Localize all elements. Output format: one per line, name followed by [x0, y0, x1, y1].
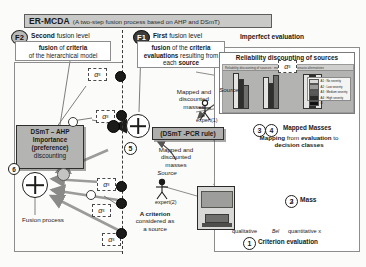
expert2-label: expert(2)	[155, 199, 177, 206]
second-fusion-description: fusion of criteria of the hierarchical m…	[15, 41, 111, 61]
monitor-base	[205, 214, 229, 223]
legend-label: A4 : High severity	[321, 96, 344, 101]
f2-b1: fusion	[39, 44, 58, 51]
fusion-process-label: Fusion process	[22, 216, 64, 223]
step-5-badge: 5	[124, 142, 137, 155]
criteria-node-4	[116, 198, 127, 209]
f1-b4: source	[178, 59, 199, 66]
alpha-subscript: s	[98, 72, 100, 77]
alpha-subscript: s	[106, 114, 108, 119]
alpha-subscript: s	[107, 182, 109, 187]
mapping-l1: Mapping from evaluation to	[240, 134, 358, 141]
mdm-bot-l3: masses	[149, 161, 203, 168]
reliability-legend: A1 : No severity A2 : Low severity A3 : …	[307, 77, 351, 101]
title-subtitle: (A two-step fusion process based on AHP …	[73, 18, 220, 25]
fusion-operator-first-level	[126, 114, 150, 138]
criteria-node-1	[115, 71, 126, 82]
alpha-chip-1: αs	[88, 68, 107, 81]
expert1-label: expert(1)	[196, 117, 218, 124]
fusion-output-node	[107, 120, 120, 133]
cas-l2: considered as	[124, 217, 186, 224]
alpha-chip-reliability: αs	[278, 60, 297, 73]
alpha-subscript: s	[102, 208, 104, 213]
axis-label-quantitative: quantitative x	[288, 228, 321, 234]
f1-r3: each	[163, 59, 178, 66]
f2-b2: criteria	[66, 44, 87, 51]
source-bottom-text: Source	[157, 169, 177, 176]
source-label-bottom: Source	[150, 169, 184, 176]
f1-r1: of the	[170, 44, 189, 51]
first-fusion-desc-line1: fusion of the criteria	[140, 44, 222, 52]
mapping-description: Mapping from evaluation to decision clas…	[240, 134, 358, 149]
axis-label-bel: Bel	[272, 228, 279, 234]
first-fusion-heading: First fusion level	[153, 32, 202, 39]
first-fusion-heading-rest: fusion level	[167, 32, 202, 39]
first-fusion-description: fusion of the criteria evaluations resul…	[137, 41, 225, 68]
second-fusion-heading-bold: Second	[31, 32, 55, 39]
legend-item: A4 : High severity	[309, 96, 349, 101]
legend-item: A2 : Low severity	[309, 85, 349, 90]
step-6-badge: 6	[8, 163, 20, 175]
diagram-canvas: ER-MCDA (A two-step fusion process based…	[0, 0, 366, 267]
f1-r2: resulting from	[178, 52, 218, 59]
dsmt-ahp-box: DSmT – AHP Importance (preference) disco…	[16, 125, 84, 169]
computer-monitor-icon	[197, 186, 235, 230]
dsmt-ahp-line1: DSmT – AHP	[17, 128, 83, 136]
f2-r1: of	[58, 44, 67, 51]
f1-b1: fusion	[151, 44, 170, 51]
step-1-badge: 1	[243, 237, 256, 250]
legend-label: A1 : No severity	[321, 79, 341, 84]
first-fusion-desc-line2: evaluations resulting from	[140, 52, 222, 60]
mdm-top-l2: discounted	[167, 95, 221, 102]
source-top-text: Source	[219, 86, 239, 93]
title-acronym: ER-MCDA	[29, 16, 70, 26]
alpha-chip-4: αs	[92, 204, 111, 217]
dsmt-pcr-rule-box: (DSmT -PCR rule)	[152, 127, 224, 140]
level-separator	[122, 30, 123, 254]
map-r2: to	[331, 134, 338, 141]
alpha-subscript: s	[112, 237, 114, 242]
cas-l1: A criterion	[124, 210, 186, 217]
source-label-top: Source	[216, 86, 242, 93]
map-b2: evaluation	[301, 134, 332, 141]
expert2-figure	[156, 179, 168, 199]
alpha-chip-3: αs	[97, 178, 116, 191]
second-fusion-desc-line2: of the hierarchical model	[18, 52, 108, 60]
criterion-evaluation-label: Criterion evaluation	[258, 238, 318, 245]
legend-item: A1 : No severity	[309, 79, 349, 84]
legend-label: A3 : Medium severity	[321, 90, 348, 95]
first-fusion-desc-line3: each source	[140, 59, 222, 67]
map-r1: from	[285, 134, 301, 141]
imperfect-evaluation-heading: Imperfect evaluation	[240, 33, 304, 40]
hierarchy-node-b	[86, 190, 96, 200]
mdm-bot-l2: discounted	[149, 153, 203, 160]
criteria-node-2	[116, 110, 127, 121]
mass-label: Mass	[300, 196, 317, 203]
second-fusion-desc-line1: fusion of criteria	[18, 44, 108, 52]
hierarchy-node-c	[57, 168, 70, 181]
fusion-operator-second-level	[22, 172, 48, 198]
monitor-screen	[201, 191, 233, 208]
mapped-discounted-masses-top: Mapped and discounted masses	[167, 88, 221, 110]
second-fusion-heading-rest: fusion level	[55, 32, 90, 39]
f1-b2: criteria	[190, 44, 211, 51]
legend-swatch	[309, 101, 319, 106]
f1-b3: evaluations	[144, 52, 179, 59]
criterion-as-source-label: A criterion considered as a source	[124, 210, 186, 232]
axis-label-qualitative: qualitative	[232, 228, 257, 234]
dsmt-ahp-line3: (preference)	[17, 144, 83, 152]
hierarchy-node-a	[68, 117, 78, 127]
legend-label: A2 : Low severity	[321, 85, 343, 90]
mdm-bot-l1: Mapped and	[149, 146, 203, 153]
mapped-masses-label: Mapped Masses	[283, 124, 331, 131]
mdm-top-l1: Mapped and	[167, 88, 221, 95]
mapped-discounted-masses-bottom: Mapped and discounted masses	[149, 146, 203, 168]
mdm-top-l3: masses	[167, 103, 221, 110]
legend-label: Ω	[321, 101, 323, 106]
axis-tick-one: 1	[291, 198, 294, 204]
mapping-l2: decision classes	[240, 141, 358, 148]
first-fusion-heading-bold: First	[153, 32, 167, 39]
legend-item: Ω	[309, 101, 349, 106]
cas-l3: a source	[124, 225, 186, 232]
dsmt-ahp-line2: Importance	[17, 136, 83, 144]
